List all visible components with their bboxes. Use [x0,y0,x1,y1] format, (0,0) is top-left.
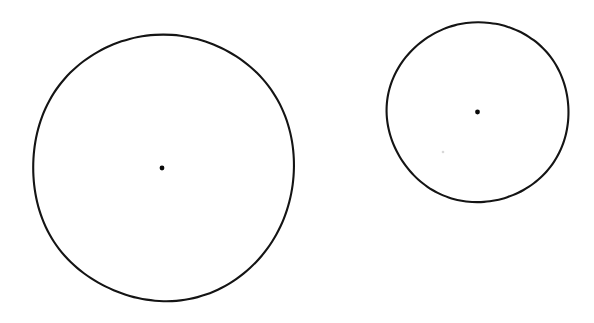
faint-speck-mark [442,151,445,154]
small-circle-center-dot [475,110,480,115]
large-circle-center-dot [160,166,165,171]
canvas-background [0,0,594,323]
figure-canvas [0,0,594,323]
line-art-svg [0,0,594,323]
